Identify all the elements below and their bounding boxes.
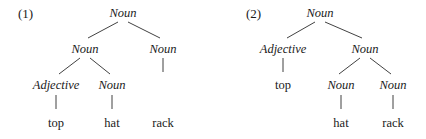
- tree-edge-nright-to-left2: [339, 58, 360, 74]
- tree-edge-root-to-nright: [325, 22, 362, 38]
- tree-edge-nright-to-right2: [370, 58, 391, 74]
- tree-node-n-right2: Noun: [379, 78, 406, 92]
- tree-2-label: (2): [246, 7, 261, 21]
- tree-node-n-right: Noun: [351, 42, 378, 56]
- syntax-tree-1: (1) NounNounNounAdjectiveNounracktophat: [0, 0, 213, 139]
- tree-node-adj: Adjective: [260, 42, 307, 56]
- syntax-tree-figure: (1) NounNounNounAdjectiveNounracktophat …: [0, 0, 426, 139]
- tree-node-n-inner: Noun: [98, 78, 125, 92]
- tree-edge-root-to-right: [128, 22, 160, 38]
- tree-node-leaf-hat: hat: [104, 116, 119, 130]
- tree-edge-left-to-adj: [59, 58, 80, 74]
- tree-1-label: (1): [18, 7, 33, 21]
- tree-node-leaf-top: top: [275, 78, 291, 92]
- syntax-tree-2: (2) NounAdjectiveNountopNounNounhatrack: [213, 0, 426, 139]
- tree-edge-root-to-adj: [287, 22, 315, 38]
- tree-node-leaf-top: top: [48, 116, 64, 130]
- tree-node-leaf-rack: rack: [382, 116, 404, 130]
- tree-node-root: Noun: [306, 6, 333, 20]
- tree-node-root: Noun: [109, 6, 136, 20]
- tree-node-adj: Adjective: [33, 78, 80, 92]
- tree-node-n-left2: Noun: [327, 78, 354, 92]
- tree-node-leaf-hat: hat: [333, 116, 348, 130]
- tree-edge-root-to-left: [88, 22, 118, 38]
- tree-node-n-right: Noun: [149, 42, 176, 56]
- tree-node-n-left: Noun: [71, 42, 98, 56]
- tree-edge-left-to-ninner: [90, 58, 110, 74]
- tree-node-leaf-rack: rack: [152, 116, 174, 130]
